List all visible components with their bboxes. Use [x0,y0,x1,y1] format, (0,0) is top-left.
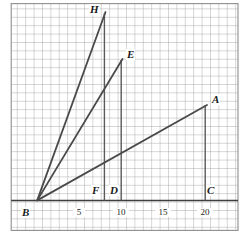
graph-canvas [0,0,242,235]
x-tick-label-5: 5 [73,208,85,217]
point-label-d: D [109,185,119,196]
point-label-c: C [206,185,215,196]
point-label-h: H [89,4,100,15]
x-tick-label-20: 20 [197,208,213,217]
x-tick-label-15: 15 [155,208,171,217]
x-tick-label-10: 10 [113,208,129,217]
point-label-a: A [211,94,220,105]
point-label-e: E [126,49,135,60]
graph-figure: H E A F D C B 5 10 15 20 [0,0,242,235]
point-label-f: F [91,185,100,196]
point-label-b: B [21,207,30,218]
